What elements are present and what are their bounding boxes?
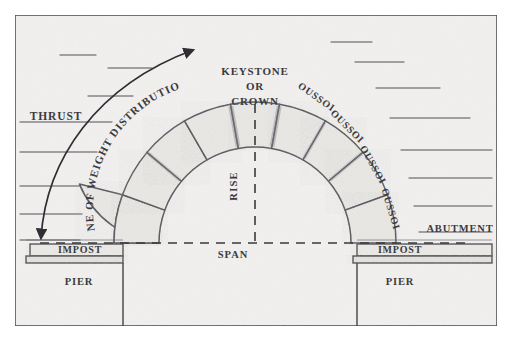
- label-span: SPAN: [218, 249, 249, 260]
- label-pier-left: PIER: [65, 276, 94, 287]
- arch-diagram-page: THRUST KEYSTONE OR CROWN LINE OF WEIGHT …: [0, 0, 512, 345]
- label-rise: RISE: [228, 171, 239, 200]
- impost-plinth-left: [26, 256, 123, 263]
- label-impost-left: IMPOST: [58, 244, 102, 255]
- label-keystone-line1: KEYSTONE: [221, 65, 288, 77]
- label-abutment: ABUTMENT: [426, 223, 493, 234]
- label-keystone-line3: CROWN: [231, 95, 278, 107]
- label-pier-right: PIER: [386, 276, 415, 287]
- label-keystone-line2: OR: [246, 80, 264, 92]
- label-impost-right: IMPOST: [378, 244, 422, 255]
- arch-diagram-svg: THRUST KEYSTONE OR CROWN LINE OF WEIGHT …: [0, 0, 512, 345]
- label-thrust: THRUST: [30, 110, 83, 122]
- impost-plinth-right: [353, 256, 492, 263]
